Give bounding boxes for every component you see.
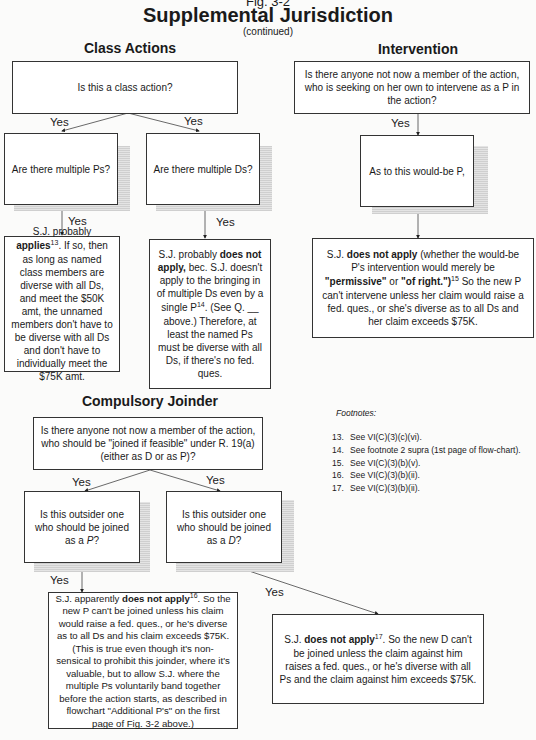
multiple-ds-question-box: Are there multiple Ds? <box>146 133 260 205</box>
intervention-answer-box: S.J. does not apply (whether the would-b… <box>312 238 534 338</box>
answer-box-multiple-ps: S.J. probably applies13. If so, then as … <box>4 236 120 372</box>
question-text: Are there multiple Ps? <box>12 163 110 176</box>
joined-as-p-question-box: Is this outsider one who should be joine… <box>24 491 140 563</box>
footnote-item: 16.See VI(C)(3)(b)(ii). <box>332 469 521 482</box>
would-be-p-box: As to this would-be P, <box>360 135 474 207</box>
question-text: Is there anyone not now a member of the … <box>301 68 523 107</box>
footnote-item: 13.See VI(C)(3)(c)(vi). <box>332 431 521 444</box>
multiple-ps-question-box: Are there multiple Ps? <box>4 133 118 205</box>
answer-text: S.J. apparently does not apply16. So the… <box>55 591 231 730</box>
section-heading-intervention: Intervention <box>300 41 536 57</box>
section-heading-class-actions: Class Actions <box>10 40 250 56</box>
footnotes-list: 13.See VI(C)(3)(c)(vi). 14.See footnote … <box>332 431 521 495</box>
footnote-item: 14.See footnote 2 supra (1st page of flo… <box>332 444 521 457</box>
yes-label: Yes <box>72 476 91 488</box>
yes-label: Yes <box>206 474 225 486</box>
question-text: Are there multiple Ds? <box>154 163 253 176</box>
question-text: Is this outsider one who should be joine… <box>173 508 275 547</box>
yes-label: Yes <box>50 574 69 586</box>
answer-box-joined-as-p: S.J. apparently does not apply16. So the… <box>48 592 238 729</box>
yes-label: Yes <box>391 117 410 129</box>
answer-text: S.J. probably does not apply, bec. S.J. … <box>156 248 264 379</box>
footnotes-title: Footnotes: <box>336 408 376 418</box>
footnote-item: 15.See VI(C)(3)(b)(v). <box>332 457 521 470</box>
answer-text: S.J. probably applies13. If so, then as … <box>11 225 113 382</box>
question-text: Is there anyone not now a member of the … <box>40 424 256 463</box>
question-text: Is this outsider one who should be joine… <box>31 508 133 547</box>
question-text: Is this a class action? <box>77 81 172 94</box>
yes-label: Yes <box>184 115 203 127</box>
class-action-question-box: Is this a class action? <box>12 61 238 114</box>
joined-as-d-question-box: Is this outsider one who should be joine… <box>166 491 282 563</box>
answer-box-joined-as-d: S.J. does not apply17. So the new D can'… <box>272 614 484 704</box>
answer-text: S.J. does not apply (whether the would-b… <box>319 248 527 327</box>
section-heading-compulsory-joinder: Compulsory Joinder <box>40 393 260 409</box>
intervention-question-box: Is there anyone not now a member of the … <box>294 61 530 114</box>
question-text: As to this would-be P, <box>369 165 464 178</box>
answer-box-multiple-ds: S.J. probably does not apply, bec. S.J. … <box>149 239 271 389</box>
joinder-question-box: Is there anyone not now a member of the … <box>33 417 263 470</box>
yes-label: Yes <box>50 116 69 128</box>
yes-label: Yes <box>216 216 235 228</box>
answer-text: S.J. does not apply17. So the new D can'… <box>279 632 477 685</box>
footnote-item: 17.See VI(C)(3)(b)(ii). <box>332 482 521 495</box>
yes-label: Yes <box>265 586 284 598</box>
